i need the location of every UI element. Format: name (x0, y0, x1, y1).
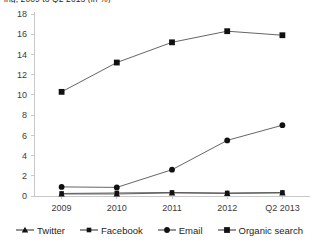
x-tick-label: Q2 2013 (265, 203, 300, 213)
plot-area: 0246810121416182009201020112012Q2 2013 (0, 0, 318, 224)
chart-legend: TwitterFacebookEmailOrganic search (0, 224, 318, 236)
y-tick-label: 0 (22, 191, 27, 201)
series-organic-search (59, 28, 286, 94)
x-tick-label: 2010 (107, 203, 127, 213)
y-tick-label: 6 (22, 131, 27, 141)
data-point-square (224, 227, 230, 233)
legend-label: Twitter (37, 225, 65, 236)
data-point-square (59, 89, 65, 95)
legend-item-facebook[interactable]: Facebook (79, 224, 143, 236)
legend-marker-icon (217, 224, 237, 236)
series-email (59, 122, 286, 190)
x-tick-label: 2011 (162, 203, 181, 213)
data-point-circle (164, 227, 170, 233)
legend-item-twitter[interactable]: Twitter (15, 224, 65, 236)
data-point-square (114, 60, 120, 66)
series-line (62, 125, 283, 187)
legend-marker-icon (157, 224, 177, 236)
x-tick-label: 2012 (217, 203, 237, 213)
data-point-circle (224, 137, 230, 143)
y-tick-label: 8 (22, 110, 27, 120)
data-point-square (280, 32, 286, 38)
data-point-circle (280, 122, 286, 128)
y-tick-label: 12 (17, 70, 27, 80)
data-point-square (224, 28, 230, 34)
legend-item-email[interactable]: Email (157, 224, 203, 236)
data-point-square (115, 191, 120, 196)
y-tick-label: 4 (22, 151, 27, 161)
data-point-square (225, 191, 230, 196)
y-tick-label: 18 (17, 9, 27, 19)
legend-marker-icon (79, 224, 99, 236)
y-tick-label: 10 (17, 90, 27, 100)
data-point-square (280, 190, 285, 195)
line-chart: ing, 2009 to Q2 2013 (in %) 024681012141… (0, 0, 318, 246)
legend-label: Email (179, 225, 203, 236)
data-point-circle (59, 184, 65, 190)
data-point-square (170, 190, 175, 195)
legend-item-organic-search[interactable]: Organic search (217, 224, 303, 236)
legend-label: Facebook (101, 225, 143, 236)
data-point-square (87, 228, 92, 233)
x-tick-label: 2009 (52, 203, 72, 213)
legend-label: Organic search (239, 225, 303, 236)
legend-marker-icon (15, 224, 35, 236)
data-point-square (59, 191, 64, 196)
y-tick-label: 2 (22, 171, 27, 181)
y-tick-label: 16 (17, 29, 27, 39)
y-tick-label: 14 (17, 50, 27, 60)
data-point-circle (169, 167, 175, 173)
data-point-square (169, 39, 175, 45)
data-point-circle (114, 185, 120, 191)
